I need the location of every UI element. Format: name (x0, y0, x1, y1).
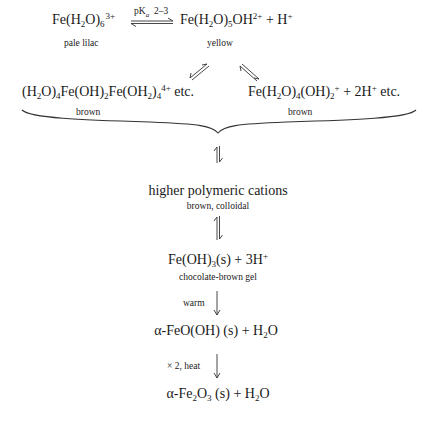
equilibrium-arrow-icon (131, 18, 173, 27)
heat-condition: × 2, heat (167, 361, 200, 371)
pka-text: pK (134, 6, 146, 16)
hexaaqua-species: Fe(H2O)63+ (52, 12, 115, 28)
vertical-equilibrium-1-icon (214, 146, 223, 163)
hexaaqua-color-label: pale lilac (64, 38, 99, 48)
goethite-species: α-FeO(OH) (s) + H2O (154, 323, 278, 339)
polymeric-species: higher polymeric cations (148, 183, 287, 199)
tetraaqua-color-label: brown (288, 107, 312, 117)
pka-value: 2–3 (154, 6, 168, 16)
polymeric-color-label: brown, colloidal (187, 201, 249, 211)
etc-text: etc. (380, 84, 400, 99)
dimer-species: (H2O)4Fe(OH)2Fe(OH2)44+ etc. (22, 84, 194, 100)
pentaaqua-species: Fe(H2O)5OH2+ + H+ (180, 12, 292, 28)
tetraaqua-species: Fe(H2O)4(OH)2+ + 2H+ etc. (248, 84, 400, 100)
diagonal-equilibrium-right-icon (240, 64, 259, 81)
down-arrow-heat-icon (214, 354, 220, 378)
vertical-equilibrium-2-icon (214, 216, 223, 240)
hematite-species: α-Fe2O3 (s) + H2O (166, 386, 269, 402)
dimer-color-label: brown (76, 107, 100, 117)
down-arrow-warm-icon (214, 291, 220, 315)
etc-text: etc. (174, 84, 194, 99)
hydroxide-species: Fe(OH)3(s) + 3H+ (168, 252, 268, 268)
hydroxide-color-label: chocolate-brown gel (179, 272, 257, 282)
pentaaqua-color-label: yellow (207, 38, 233, 48)
warm-condition: warm (183, 298, 205, 308)
diagonal-equilibrium-left-icon (190, 64, 209, 80)
pka-condition: pKa 2–3 (134, 6, 168, 16)
pka-subscript: a (146, 11, 150, 19)
